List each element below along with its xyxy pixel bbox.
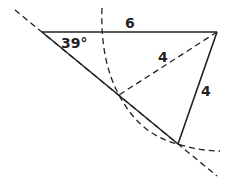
top-side-label: 6	[125, 15, 135, 31]
side-bc	[178, 32, 217, 144]
right-side-label: 4	[201, 83, 211, 99]
dashed-side-label: 4	[158, 49, 168, 65]
triangle-diagram: 39° 6 4 4	[0, 0, 232, 187]
angle-label: 39°	[61, 35, 87, 51]
